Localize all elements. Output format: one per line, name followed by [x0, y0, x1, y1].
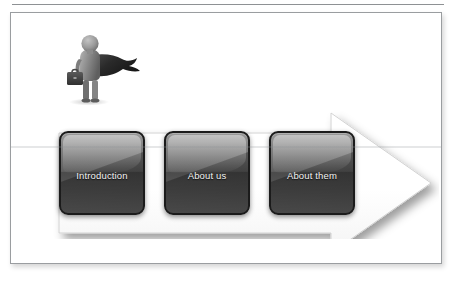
chip-label: About us	[166, 170, 248, 181]
figure-leg-right	[92, 80, 98, 100]
figure-neck	[87, 50, 93, 54]
chip-label: Introduction	[61, 170, 143, 181]
figure-leg-left	[83, 80, 89, 100]
figure-foot-right	[91, 98, 100, 102]
chip-about-us[interactable]: About us	[164, 131, 250, 215]
slide-frame: Introduction About us About them	[10, 12, 442, 264]
chip-introduction[interactable]: Introduction	[59, 131, 145, 215]
figure-foot-left	[82, 98, 91, 102]
briefcase-latch	[74, 77, 77, 79]
page-root: Introduction About us About them	[0, 0, 453, 281]
chip-about-them[interactable]: About them	[269, 131, 355, 215]
chip-label: About them	[271, 170, 353, 181]
top-horizontal-rule	[12, 4, 444, 5]
businessman-with-briefcase-icon	[59, 31, 143, 107]
figure-head	[81, 35, 98, 52]
